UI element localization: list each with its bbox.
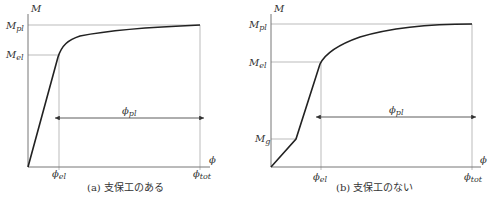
panel-b: M ϕ Mpl Mel Mg ϕel ϕtot ϕpl (b) 支保工のない: [248, 3, 487, 193]
tick-label-phi-el: ϕel: [313, 171, 328, 184]
caption-b: (b) 支保工のない: [336, 181, 413, 193]
caption-a: (a) 支保工のある: [87, 181, 164, 193]
tick-label-phi-tot: ϕtot: [193, 168, 212, 181]
dimension-label-phi-pl: ϕpl: [389, 104, 404, 117]
moment-curvature-diagram: M ϕ Mpl Mel ϕel ϕtot ϕpl (a) 支保工のある: [0, 0, 491, 199]
dimension-label-phi-pl: ϕpl: [122, 105, 137, 118]
moment-curve: [271, 24, 472, 167]
panel-a: M ϕ Mpl Mel ϕel ϕtot ϕpl (a) 支保工のある: [5, 3, 216, 193]
tick-label-mel: Mel: [5, 49, 24, 62]
x-axis-label: ϕ: [209, 154, 216, 165]
tick-label-mpl: Mpl: [248, 19, 267, 32]
tick-label-mel: Mel: [248, 57, 267, 70]
tick-label-mpl: Mpl: [5, 20, 24, 33]
moment-curve: [28, 25, 200, 167]
x-axis-label: ϕ: [480, 154, 487, 165]
tick-label-phi-tot: ϕtot: [464, 171, 483, 184]
y-axis-label: M: [30, 3, 42, 14]
y-axis-label: M: [273, 3, 285, 14]
tick-label-mg: Mg: [254, 133, 270, 146]
